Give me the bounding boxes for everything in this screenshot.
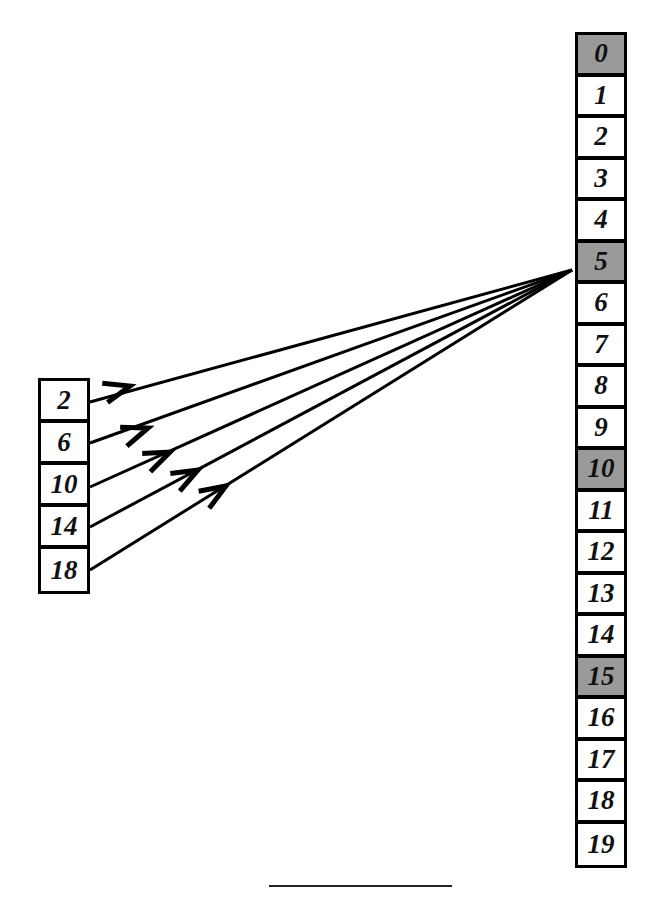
bottom-rule — [269, 885, 452, 887]
arrow-line — [90, 270, 572, 443]
arrow-line — [90, 270, 572, 570]
arrows-layer — [0, 0, 657, 910]
arrowhead-icon — [199, 486, 226, 508]
arrow-line — [90, 270, 572, 527]
arrow-line — [90, 270, 572, 402]
